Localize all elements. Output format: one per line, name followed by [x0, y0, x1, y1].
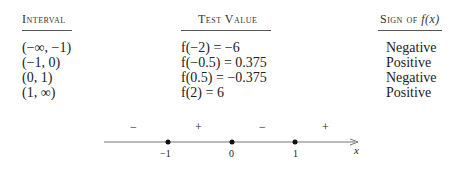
sign-plus-2: + [322, 120, 329, 135]
number-line [0, 0, 463, 169]
tick-label: 1 [293, 148, 298, 159]
sign-minus-2: − [259, 120, 266, 135]
tick-label: −1 [160, 148, 171, 159]
axis-label-x: x [354, 144, 359, 156]
tick-label: 0 [229, 148, 234, 159]
sign-plus-1: + [195, 120, 202, 135]
sign-minus-1: − [130, 120, 137, 135]
